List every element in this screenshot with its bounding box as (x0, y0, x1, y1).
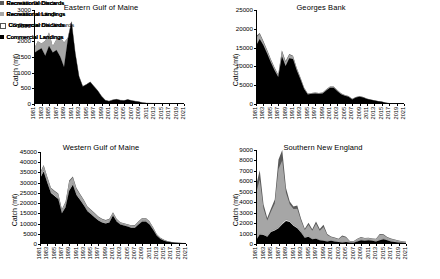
x-axis-tick-label: 2005 (125, 247, 131, 259)
x-axis-tick-mark (382, 104, 383, 106)
y-axis-tick-label: 40000 (20, 159, 37, 165)
x-axis-tick-label: 2003 (334, 107, 340, 119)
x-axis-tick-label: 1991 (69, 107, 75, 119)
x-axis-tick-label: 2013 (154, 247, 160, 259)
x-axis-tick-mark (330, 104, 331, 106)
x-axis-tick-mark (256, 244, 257, 246)
x-axis-tick-label: 1995 (306, 247, 312, 259)
x-axis-tick-mark (42, 104, 43, 106)
x-axis-tick-label: 1995 (305, 107, 311, 119)
x-axis-tick-label: 2005 (121, 107, 127, 119)
x-axis-tick-mark (106, 244, 107, 246)
x-axis-tick-label: 2007 (349, 107, 355, 119)
legend-item: Commercial Discards (0, 22, 65, 29)
x-axis-tick-mark (69, 244, 70, 246)
x-axis-tick-mark (346, 244, 347, 246)
x-axis-tick-label: 1997 (91, 107, 97, 119)
legend-label: Recreational Landings (7, 11, 66, 17)
area-series (256, 39, 404, 104)
y-axis-tick-mark (254, 213, 256, 214)
stacked-area-series (256, 150, 406, 244)
x-axis-tick-mark (98, 244, 99, 246)
legend-label: Recreational Discards (7, 0, 65, 6)
x-axis-tick-mark (293, 104, 294, 106)
y-axis-label: Catch (mt) (232, 53, 239, 86)
x-axis-tick-label: 2007 (129, 107, 135, 119)
x-axis-tick-mark (256, 104, 257, 106)
x-axis-tick-mark (171, 244, 172, 246)
chart-panel-georges-bank: Georges Bank Catch (mt) 0500010000150002… (220, 0, 440, 139)
x-axis-tick-label: 2011 (147, 247, 153, 259)
x-axis-tick-mark (352, 104, 353, 106)
x-axis-tick-label: 1983 (44, 247, 50, 259)
x-axis-tick-mark (109, 104, 110, 106)
y-axis-tick-mark (254, 181, 256, 182)
y-axis-tick-label: 1000 (239, 230, 253, 236)
x-axis-tick-label: 2017 (388, 247, 394, 259)
x-axis-tick-mark (376, 244, 377, 246)
x-axis-tick-label: 2015 (159, 107, 165, 119)
y-axis-tick-mark (38, 162, 40, 163)
x-axis-tick-mark (157, 244, 158, 246)
x-axis-tick-label: 2015 (161, 247, 167, 259)
area-series (40, 171, 186, 244)
legend-southern-new-england: Recreational Discards Recreational Landi… (0, 0, 65, 46)
x-axis-tick-mark (62, 244, 63, 246)
x-axis-tick-mark (135, 244, 136, 246)
x-axis-tick-mark (77, 244, 78, 246)
y-axis-tick-label: 5000 (23, 231, 37, 237)
x-axis-tick-label: 2021 (403, 247, 409, 259)
x-axis-tick-label: 1983 (261, 247, 267, 259)
x-axis-tick-label: 2021 (401, 107, 407, 119)
x-axis-tick-label: 1989 (61, 107, 67, 119)
y-axis-tick-mark (254, 85, 256, 86)
x-axis-tick-label: 2001 (106, 107, 112, 119)
y-axis-tick-label: 10000 (236, 63, 253, 69)
x-axis-tick-mark (55, 244, 56, 246)
x-axis-tick-mark (374, 104, 375, 106)
y-axis-tick-label: 20000 (236, 26, 253, 32)
chart-panel-western-gulf-of-maine: Western Gulf of Maine Catch (mt) 0500010… (0, 140, 220, 279)
y-axis-tick-mark (38, 152, 40, 153)
x-axis-tick-mark (286, 104, 287, 106)
x-axis-tick-label: 1997 (95, 247, 101, 259)
x-axis-tick-mark (369, 244, 370, 246)
y-axis-tick-mark (38, 203, 40, 204)
x-axis-tick-label: 2005 (342, 107, 348, 119)
x-axis-tick-mark (102, 104, 103, 106)
x-axis-tick-label: 2009 (358, 247, 364, 259)
x-axis-tick-mark (286, 244, 287, 246)
y-axis-tick-label: 45000 (20, 149, 37, 155)
x-axis-tick-mark (337, 104, 338, 106)
y-axis-tick-mark (254, 160, 256, 161)
legend-item: Commercial Landings (0, 34, 65, 40)
x-axis-tick-label: 1981 (31, 107, 37, 119)
x-axis-tick-mark (263, 104, 264, 106)
x-axis-tick-mark (384, 244, 385, 246)
y-axis-tick-mark (32, 73, 34, 74)
x-axis-tick-label: 1985 (268, 247, 274, 259)
y-axis-tick-label: 4000 (239, 199, 253, 205)
x-axis-tick-label: 1985 (268, 107, 274, 119)
x-axis-tick-mark (154, 104, 155, 106)
x-axis-tick-mark (117, 104, 118, 106)
x-axis-tick-label: 2003 (117, 247, 123, 259)
x-axis-tick-label: 1987 (276, 247, 282, 259)
y-axis-tick-label: 2000 (239, 220, 253, 226)
y-axis-label: Catch (mt) (232, 193, 239, 226)
x-axis-tick-label: 1999 (321, 247, 327, 259)
y-axis-tick-mark (38, 193, 40, 194)
x-axis-tick-label: 1985 (46, 107, 52, 119)
y-axis-tick-mark (38, 213, 40, 214)
x-axis-tick-mark (124, 104, 125, 106)
x-axis-tick-mark (315, 104, 316, 106)
y-axis-tick-mark (32, 88, 34, 89)
plot-canvas (256, 150, 406, 244)
y-axis-tick-mark (38, 172, 40, 173)
x-axis-tick-mark (331, 244, 332, 246)
x-axis-tick-mark (57, 104, 58, 106)
x-axis-tick-label: 1987 (59, 247, 65, 259)
legend-label: Commercial Discards (9, 22, 65, 28)
x-axis-tick-mark (164, 244, 165, 246)
y-axis-label: Catch (mt) (11, 193, 18, 226)
